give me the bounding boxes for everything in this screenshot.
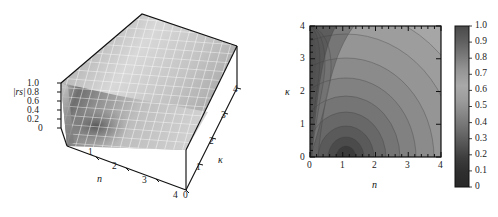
surface-gridlines (55, 8, 250, 158)
colorbar-label-0-1: 0.1 (475, 166, 487, 176)
colorbar-label-0-4: 0.4 (475, 118, 487, 128)
colorbar-gradient (455, 26, 469, 187)
figure-two-panel: 1.0 0.8 0.6 0.4 0.2 0 |rs| 1 2 3 4 n 0 1… (0, 0, 498, 217)
contour-x-tick-1: 1 (340, 161, 345, 171)
contour-x-tick-4: 4 (438, 161, 443, 171)
z-axis-label: |rs| (13, 88, 26, 98)
colorbar-label-0: 0 (475, 182, 480, 192)
colorbar-label-0-5: 0.5 (475, 101, 487, 111)
panel-contour-2d: 0 1 2 3 4 n 0 1 2 3 4 κ 1.0 0.9 0.8 0.7 … (250, 0, 498, 217)
z-tick-0: 0 (38, 124, 43, 134)
colorbar-label-0-8: 0.8 (475, 53, 487, 63)
contour-x-tick-0: 0 (307, 161, 312, 171)
contour-x-tick-2: 2 (372, 161, 377, 171)
contour-x-axis-label: n (372, 180, 377, 190)
colorbar-label-0-2: 0.2 (475, 150, 487, 160)
z-axis-ticks (57, 83, 61, 128)
colorbar-label-0-7: 0.7 (475, 69, 487, 79)
n-axis-label: n (97, 174, 102, 184)
contour-y-tick-0: 0 (300, 153, 305, 163)
colorbar-label-0-6: 0.6 (475, 85, 487, 95)
contour-y-tick-2: 2 (300, 87, 305, 97)
n-tick-1: 1 (88, 148, 93, 158)
kappa-tick-3: 3 (221, 111, 226, 121)
contour-fill-region (250, 10, 478, 217)
kappa-tick-2: 2 (209, 137, 214, 147)
n-tick-4: 4 (173, 191, 178, 201)
kappa-tick-1: 1 (196, 163, 201, 173)
colorbar-label-1-0: 1.0 (475, 21, 487, 31)
n-tick-2: 2 (112, 162, 117, 172)
contour-y-tick-1: 1 (300, 120, 305, 130)
n-tick-3: 3 (142, 176, 147, 186)
contour-y-tick-3: 3 (300, 54, 305, 64)
contour-y-tick-4: 4 (300, 22, 305, 32)
panel-3d-surface: 1.0 0.8 0.6 0.4 0.2 0 |rs| 1 2 3 4 n 0 1… (0, 0, 250, 217)
surface-mesh-body (55, 8, 250, 158)
contour-x-tick-3: 3 (405, 161, 410, 171)
colorbar-label-0-3: 0.3 (475, 134, 487, 144)
kappa-tick-0: 0 (183, 191, 188, 201)
kappa-axis-label: κ (218, 155, 223, 165)
contour-y-axis-label: κ (285, 87, 290, 97)
kappa-tick-4: 4 (233, 85, 238, 95)
colorbar-label-0-9: 0.9 (475, 37, 487, 47)
